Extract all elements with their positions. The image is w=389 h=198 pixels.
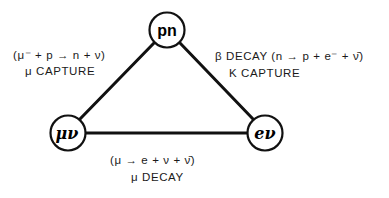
mu-decay-reaction: (μ → e + ν + ν̄) bbox=[110, 154, 195, 166]
mu-capture-reaction: (μ⁻ + p → n + ν) bbox=[13, 48, 106, 62]
node-pn: pn bbox=[150, 13, 185, 48]
decay-triangle-diagram: pn μν eν bbox=[0, 0, 389, 198]
node-e-nu: eν bbox=[248, 116, 283, 151]
mu-capture-label: μ CAPTURE bbox=[25, 65, 95, 77]
node-mu-nu: μν bbox=[51, 116, 86, 151]
node-mu-nu-label: μν bbox=[56, 124, 79, 143]
node-e-nu-label: eν bbox=[254, 124, 275, 143]
mu-decay-label: μ DECAY bbox=[131, 171, 184, 183]
beta-decay-reaction: β DECAY (n → p + e⁻ + ν̄) bbox=[215, 49, 364, 63]
k-capture-label: K CAPTURE bbox=[229, 67, 300, 79]
node-pn-label: pn bbox=[157, 22, 177, 39]
